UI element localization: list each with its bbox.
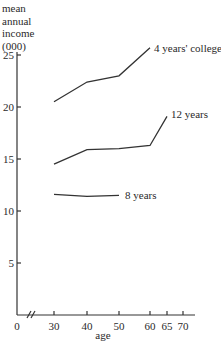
line-chart: 5101520250304050606570age4 years' colleg… <box>0 0 221 341</box>
x-tick-label: 65 <box>162 320 174 332</box>
series-line <box>54 194 119 196</box>
y-tick-label: 5 <box>9 257 15 269</box>
y-tick-label: 20 <box>3 101 15 113</box>
series-line <box>54 116 167 164</box>
x-tick-label: 30 <box>49 320 61 332</box>
x-tick-label: 50 <box>114 320 126 332</box>
series-line <box>54 48 150 102</box>
y-tick-label: 10 <box>3 205 15 217</box>
y-tick-label: 25 <box>3 49 15 61</box>
x-tick-label: 40 <box>82 320 94 332</box>
x-tick-label: 0 <box>14 320 20 332</box>
x-axis-label: age <box>95 329 110 341</box>
series-label: 8 years <box>125 189 156 201</box>
x-tick-label: 70 <box>178 320 190 332</box>
y-tick-label: 15 <box>3 153 15 165</box>
series-label: 12 years <box>171 108 208 120</box>
x-tick-label: 60 <box>145 320 157 332</box>
series-label: 4 years' college <box>154 42 221 54</box>
